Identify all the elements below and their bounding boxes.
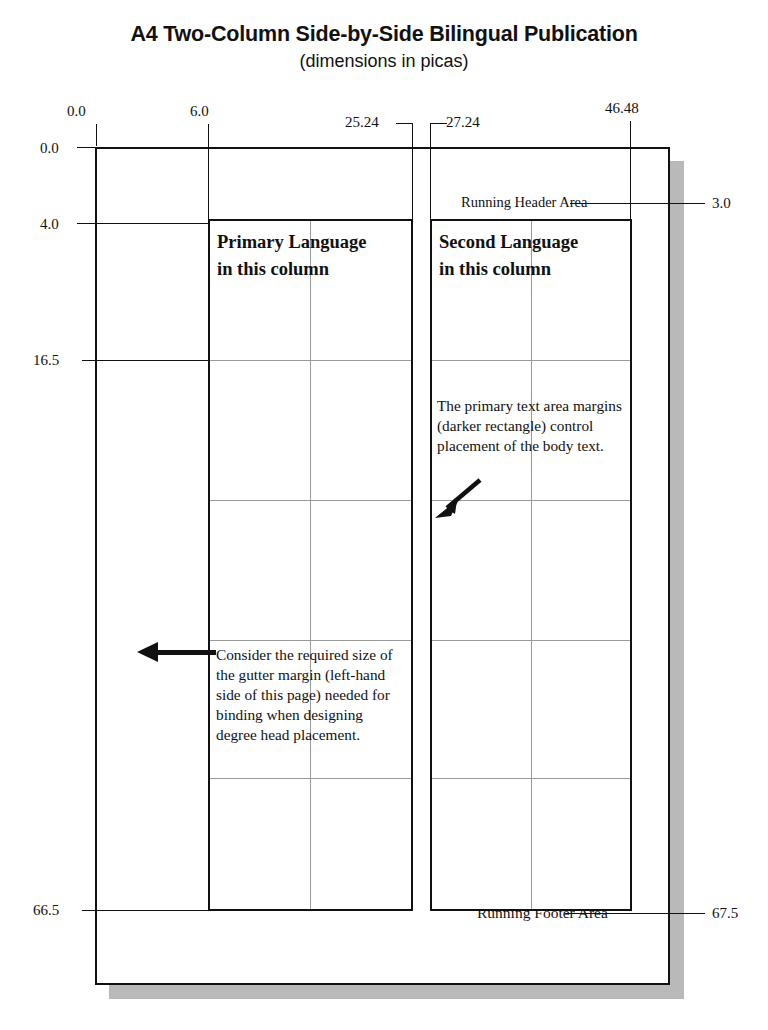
column-centerline-second [531, 221, 532, 909]
dimension-label-top-27: 27.24 [446, 115, 480, 130]
dimension-label-top-46: 46.48 [605, 101, 639, 116]
running-header-label: Running Header Area [461, 195, 587, 210]
dimension-label-left-165: 16.5 [33, 353, 59, 368]
gutter-margin-arrow-shaft [156, 650, 216, 655]
dimension-label-top-6: 6.0 [190, 104, 209, 119]
column-gridline-primary-3 [210, 640, 411, 641]
leader-top-25 [412, 123, 413, 219]
dimension-label-top-0: 0.0 [67, 104, 86, 119]
text-area-margin-arrow [425, 470, 495, 530]
column-gridline-primary-1 [210, 360, 411, 361]
column-gridline-primary-4 [210, 778, 411, 779]
dimension-label-top-25: 25.24 [345, 115, 379, 130]
dimension-label-right-675: 67.5 [712, 906, 738, 921]
dimension-label-left-4: 4.0 [40, 217, 59, 232]
leader-top-46 [630, 121, 631, 219]
leader-top-27-elbow [430, 123, 447, 124]
column-gridline-second-4 [432, 778, 630, 779]
column-body-second: The primary text area margins (darker re… [437, 396, 623, 456]
column-gridline-primary-2 [210, 500, 411, 501]
column-body-primary: Consider the required size of the gutter… [216, 645, 405, 744]
column-heading-primary-line2: in this column [217, 256, 407, 283]
column-gridline-second-3 [432, 640, 630, 641]
column-heading-primary: Primary Language in this column [217, 229, 407, 283]
dimension-label-left-665: 66.5 [33, 903, 59, 918]
leader-left-665 [82, 910, 210, 911]
leader-left-0 [77, 147, 95, 148]
column-centerline-primary [310, 221, 311, 909]
dimension-label-right-3: 3.0 [712, 196, 731, 211]
leader-top-25-elbow [396, 123, 413, 124]
page-title: A4 Two-Column Side-by-Side Bilingual Pub… [0, 22, 768, 47]
leader-top-27 [430, 123, 431, 219]
column-heading-primary-line1: Primary Language [217, 229, 407, 256]
column-heading-second-line2: in this column [439, 256, 629, 283]
gutter-margin-arrow-head [137, 642, 158, 662]
leader-left-165 [82, 360, 210, 361]
leader-right-3 [570, 203, 705, 204]
dimension-label-left-0: 0.0 [40, 141, 59, 156]
leader-top-6 [208, 124, 209, 219]
column-heading-second: Second Language in this column [439, 229, 629, 283]
column-heading-second-line1: Second Language [439, 229, 629, 256]
text-area-margin-arrow-shaft [447, 480, 480, 508]
page-subtitle: (dimensions in picas) [0, 51, 768, 72]
title-block: A4 Two-Column Side-by-Side Bilingual Pub… [0, 22, 768, 72]
leader-top-0 [96, 124, 97, 146]
column-gridline-second-1 [432, 360, 630, 361]
leader-left-4 [77, 223, 210, 224]
